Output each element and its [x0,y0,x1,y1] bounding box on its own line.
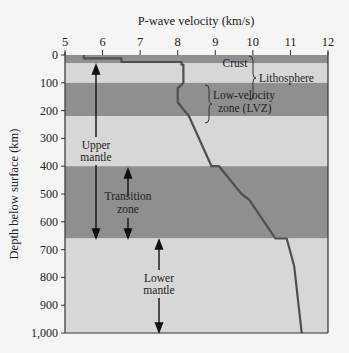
x-tick-label: 8 [175,35,181,49]
upper-mantle-label-line2: mantle [80,151,111,163]
x-tick-label: 9 [212,35,218,49]
y-tick-label: 200 [40,104,58,118]
x-tick-label: 12 [322,35,335,49]
lvz-label-line1: Low-velocity [213,89,275,102]
x-tick-label: 5 [62,35,68,49]
y-tick-label: 400 [40,159,58,173]
y-tick-label: 1,000 [31,326,58,340]
band-2 [65,83,328,116]
velocity-depth-chart: 5678910111201002003004005006007008009001… [0,0,349,353]
y-tick-label: 100 [40,76,58,90]
y-tick-label: 0 [52,48,58,62]
y-tick-label: 300 [40,131,58,145]
band-5 [65,238,328,333]
y-tick-label: 900 [40,298,58,312]
transition-zone-label-line2: zone [117,203,139,215]
x-tick-label: 10 [247,35,260,49]
lvz-label-line2: zone (LVZ) [218,102,272,115]
y-axis-title: Depth below surface (km) [7,129,21,260]
lower-mantle-label-line2: mantle [143,284,174,296]
lower-mantle-label-line1: Lower [144,272,174,284]
y-tick-label: 600 [40,215,58,229]
transition-zone-label-line1: Transition [105,190,152,202]
band-4 [65,166,328,238]
y-tick-label: 700 [40,243,58,257]
lithosphere-label: Lithosphere [259,72,314,85]
x-axis-title: P-wave velocity (km/s) [138,14,255,28]
x-tick-label: 6 [99,35,105,49]
y-tick-label: 500 [40,187,58,201]
crust-label: Crust [223,57,249,69]
y-tick-label: 800 [40,270,58,284]
x-tick-label: 7 [137,35,143,49]
x-tick-label: 11 [284,35,296,49]
